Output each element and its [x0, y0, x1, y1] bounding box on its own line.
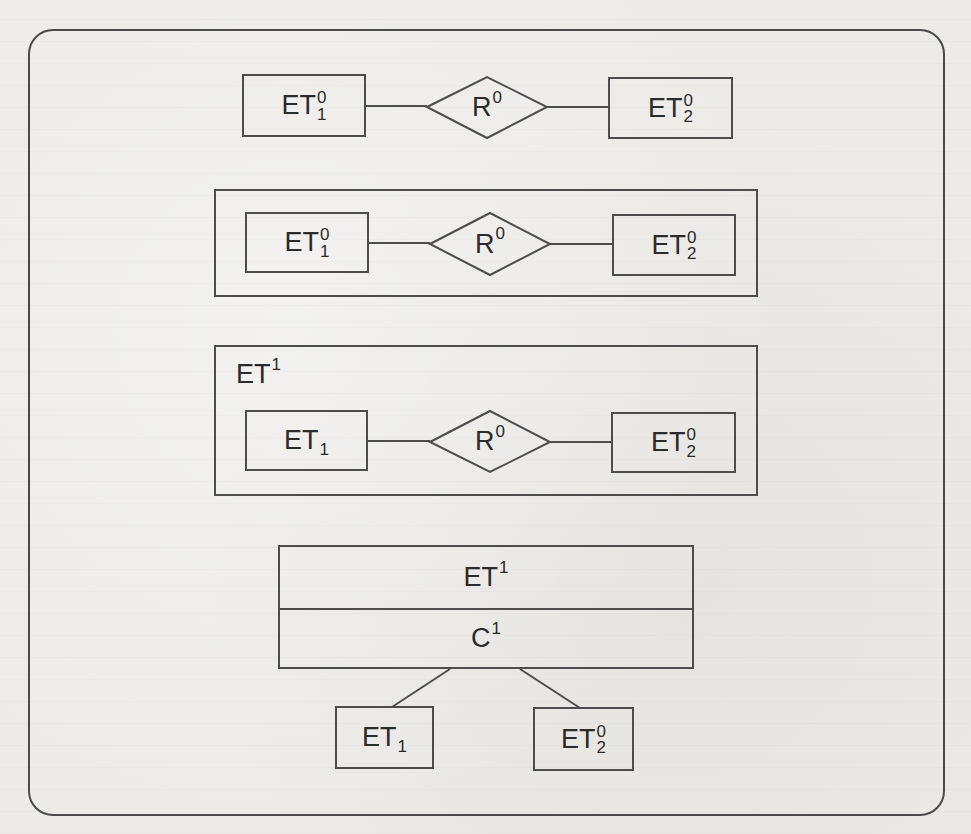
entity-sub: 2 — [597, 740, 606, 756]
row3-relationship-label: R0 — [430, 411, 550, 472]
entity-sub: 2 — [684, 109, 693, 125]
row4-child-left: ET1 — [335, 706, 434, 769]
relationship-sup: 0 — [496, 422, 505, 442]
container-base: ET — [236, 359, 271, 390]
entity-sub: 1 — [320, 441, 329, 458]
entity-base: ET — [282, 92, 317, 119]
row4-child-right: ET 0 2 — [533, 707, 634, 771]
entity-base: ET — [652, 232, 687, 259]
relationship-base: R — [475, 229, 495, 260]
row2-entity-right: ET 0 2 — [612, 214, 736, 276]
relationship-sup: 0 — [493, 88, 502, 108]
entity-sub: 2 — [687, 444, 696, 460]
row1-entity-right: ET 0 2 — [608, 77, 733, 139]
row4-cluster-box: ET1 C1 — [278, 545, 694, 669]
entity-base: ET — [362, 724, 397, 751]
row3-container-label: ET1 — [236, 359, 281, 390]
entity-base: ET — [285, 229, 320, 256]
relationship-base: R — [475, 426, 495, 457]
row1-entity-left: ET 0 1 — [242, 74, 366, 137]
relationship-sup: 0 — [496, 224, 505, 244]
entity-sub: 2 — [687, 246, 696, 262]
cluster-bottom-base: C — [471, 623, 491, 654]
entity-base: ET — [648, 95, 683, 122]
row3-entity-right: ET 0 2 — [611, 412, 736, 473]
row2-relationship-label: R0 — [430, 213, 550, 275]
entity-sub: 1 — [317, 107, 326, 123]
entity-sub: 1 — [320, 244, 329, 260]
entity-base: ET — [561, 726, 596, 753]
entity-base: ET — [651, 429, 686, 456]
cluster-bottom-sup: 1 — [492, 619, 501, 639]
relationship-base: R — [472, 92, 492, 123]
cluster-top-base: ET — [464, 562, 499, 593]
row1-relationship-label: R0 — [427, 77, 547, 138]
row2-entity-left: ET 0 1 — [245, 212, 369, 273]
row3-entity-left: ET1 — [245, 410, 368, 471]
row4-right-branch — [520, 669, 580, 708]
row4-top-section: ET1 — [280, 547, 692, 608]
row4-bottom-section: C1 — [280, 610, 692, 667]
cluster-top-sup: 1 — [499, 558, 508, 578]
entity-sub: 1 — [398, 738, 407, 755]
entity-base: ET — [284, 427, 319, 454]
container-sup: 1 — [272, 355, 281, 375]
row4-left-branch — [392, 669, 450, 707]
